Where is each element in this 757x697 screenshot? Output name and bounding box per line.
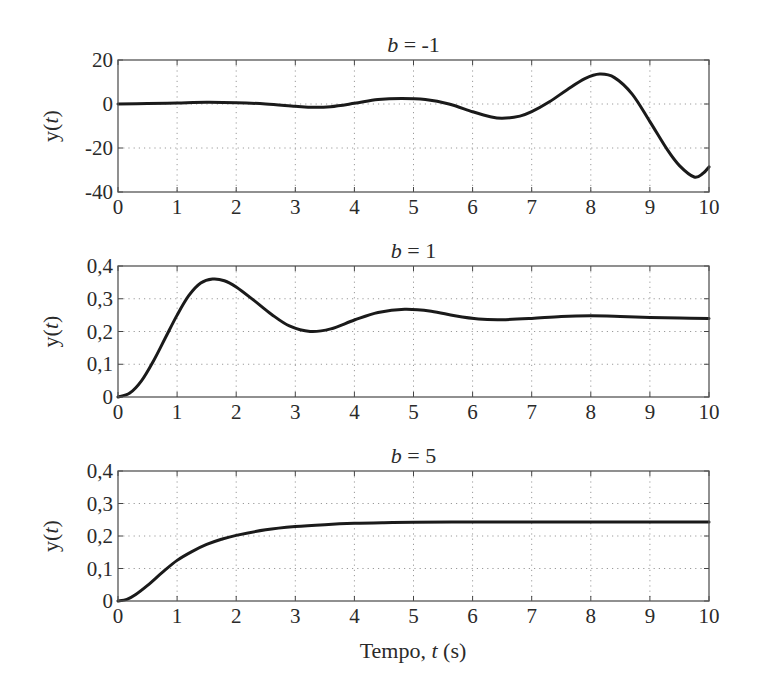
x-tick-label: 6: [467, 400, 478, 424]
x-tick-label: 3: [290, 604, 301, 628]
subplot-1: 012345678910-40-20020b = -1y(t): [38, 32, 720, 219]
x-tick-label: 5: [408, 604, 419, 628]
x-tick-label: 1: [172, 604, 183, 628]
y-tick-label: 20: [92, 48, 113, 72]
x-tick-label: 7: [526, 195, 537, 219]
y-axis-label: y(t): [38, 520, 63, 552]
y-tick-label: -20: [85, 136, 113, 160]
y-tick-label: 0,1: [87, 557, 113, 581]
x-tick-label: 2: [231, 604, 242, 628]
grid: [118, 60, 709, 192]
x-tick-label: 0: [113, 400, 124, 424]
subplots: 012345678910-40-20020b = -1y(t)012345678…: [38, 32, 720, 628]
x-axis-label: Tempo, t (s): [360, 638, 467, 663]
x-tick-label: 4: [349, 604, 360, 628]
y-axis-label: y(t): [38, 110, 63, 142]
x-tick-label: 8: [586, 195, 597, 219]
y-tick-labels: 00,10,20,30,4: [87, 459, 114, 613]
y-tick-label: 0,3: [87, 492, 113, 516]
y-tick-label: 0,2: [87, 320, 113, 344]
y-tick-labels: -40-20020: [85, 48, 113, 204]
x-tick-label: 7: [526, 604, 537, 628]
grid: [118, 266, 709, 397]
subplot-title: b = -1: [387, 32, 440, 57]
x-tick-label: 8: [586, 400, 597, 424]
figure: 012345678910-40-20020b = -1y(t)012345678…: [0, 0, 757, 697]
subplot-3: 01234567891000,10,20,30,4b = 5y(t): [38, 443, 720, 628]
subplot-title: b = 5: [391, 443, 436, 468]
x-tick-label: 9: [645, 195, 656, 219]
x-tick-label: 10: [699, 195, 720, 219]
y-tick-label: 0,3: [87, 287, 113, 311]
x-tick-label: 9: [645, 604, 656, 628]
x-tick-label: 6: [467, 195, 478, 219]
x-tick-label: 4: [349, 195, 360, 219]
y-tick-label: 0,4: [87, 254, 114, 278]
y-tick-labels: 00,10,20,30,4: [87, 254, 114, 409]
x-tick-label: 2: [231, 400, 242, 424]
x-tick-label: 5: [408, 400, 419, 424]
y-tick-label: 0: [103, 385, 114, 409]
x-tick-label: 0: [113, 195, 124, 219]
y-tick-label: 0: [103, 589, 114, 613]
subplot-title: b = 1: [391, 238, 436, 263]
x-tick-label: 3: [290, 400, 301, 424]
y-tick-label: 0,2: [87, 524, 113, 548]
x-tick-label: 2: [231, 195, 242, 219]
y-axis-label: y(t): [38, 316, 63, 348]
y-tick-label: 0: [103, 92, 114, 116]
x-tick-labels: 012345678910: [113, 195, 720, 219]
x-tick-label: 3: [290, 195, 301, 219]
y-tick-label: 0,1: [87, 352, 113, 376]
subplot-2: 01234567891000,10,20,30,4b = 1y(t): [38, 238, 720, 424]
series-line: [118, 74, 709, 177]
x-tick-label: 8: [586, 604, 597, 628]
grid: [118, 471, 709, 601]
plot-frame: [118, 60, 709, 192]
x-tick-label: 10: [699, 604, 720, 628]
x-tick-label: 9: [645, 400, 656, 424]
y-tick-label: 0,4: [87, 459, 114, 483]
x-tick-label: 6: [467, 604, 478, 628]
x-tick-labels: 012345678910: [113, 400, 720, 424]
x-tick-label: 1: [172, 400, 183, 424]
x-tick-label: 1: [172, 195, 183, 219]
series-line: [118, 279, 709, 397]
x-tick-label: 0: [113, 604, 124, 628]
x-tick-label: 4: [349, 400, 360, 424]
x-tick-labels: 012345678910: [113, 604, 720, 628]
x-tick-label: 10: [699, 400, 720, 424]
x-tick-label: 7: [526, 400, 537, 424]
x-tick-label: 5: [408, 195, 419, 219]
ticks: [118, 60, 709, 192]
y-tick-label: -40: [85, 180, 113, 204]
